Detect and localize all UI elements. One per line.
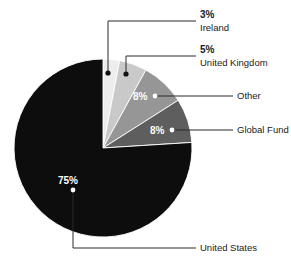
pie-chart-figure: 8% 8% 75% 3% Ireland 5% United Kingdom O… xyxy=(0,0,291,267)
callout-ireland-name: Ireland xyxy=(200,22,229,33)
leader-dot-united-kingdom xyxy=(123,71,128,76)
callout-other-name: Other xyxy=(237,90,261,101)
callout-united-states-name: United States xyxy=(200,242,257,253)
pie-chart-canvas: 8% 8% 75% 3% Ireland 5% United Kingdom O… xyxy=(0,0,291,267)
pie-slices-group xyxy=(14,59,192,237)
inpie-label-global-fund-percent: 8% xyxy=(150,125,165,136)
callout-united-kingdom-name: United Kingdom xyxy=(200,57,268,68)
leader-dot-global-fund xyxy=(170,128,175,133)
callout-united-kingdom-percent: 5% xyxy=(200,44,215,55)
inpie-label-other-percent: 8% xyxy=(133,91,148,102)
inpie-label-united-states-percent: 75% xyxy=(58,175,78,186)
callout-ireland-percent: 3% xyxy=(200,9,215,20)
leader-dot-united-states xyxy=(71,188,76,193)
callout-global-fund-name: Global Fund xyxy=(237,124,289,135)
callout-labels-group: 3% Ireland 5% United Kingdom Other Globa… xyxy=(200,9,289,253)
leader-dot-other xyxy=(153,94,158,99)
leader-dot-ireland xyxy=(105,70,110,75)
